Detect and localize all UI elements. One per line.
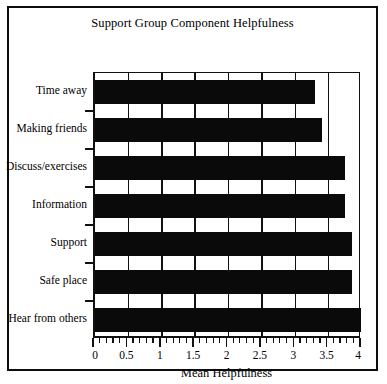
bars-layer <box>95 73 359 336</box>
x-axis-tick-major <box>259 338 261 347</box>
x-axis-tick-minor <box>146 338 147 343</box>
x-axis-tick-minor <box>266 338 267 343</box>
bar-row <box>95 156 359 180</box>
x-axis-tick-minor <box>233 338 234 343</box>
x-axis-tick-major <box>159 338 161 347</box>
y-axis-label-information: Information <box>32 199 87 211</box>
bar-row <box>95 270 359 294</box>
plot-area <box>93 72 360 338</box>
x-axis-tick-major <box>192 338 194 347</box>
x-axis-tick-label: 0 <box>92 349 98 361</box>
x-axis-tick-minor <box>112 338 113 343</box>
x-axis-tick-minor <box>99 338 100 343</box>
bar-row <box>95 308 359 332</box>
y-axis-label-discuss-exercises: Discuss/exercises <box>6 161 87 173</box>
x-axis-tick-minor <box>119 338 120 343</box>
x-axis-tick-label: 0.5 <box>119 349 133 361</box>
x-axis-tick-minor <box>173 338 174 343</box>
bar-support[interactable] <box>95 232 352 256</box>
x-axis-tick-minor <box>246 338 247 343</box>
x-axis-tick-minor <box>273 338 274 343</box>
x-axis-tick-minor <box>313 338 314 343</box>
x-axis-tick-minor <box>353 338 354 343</box>
x-axis-tick-minor <box>219 338 220 343</box>
y-axis-label-making-friends: Making friends <box>16 123 87 135</box>
y-axis-label-safe-place: Safe place <box>39 275 87 287</box>
y-axis-tick <box>85 262 93 264</box>
x-axis-tick-label: 2 <box>224 349 230 361</box>
x-axis-tick-minor <box>139 338 140 343</box>
x-axis-tick-minor <box>186 338 187 343</box>
bar-row <box>95 194 359 218</box>
x-axis-tick-minor <box>306 338 307 343</box>
y-axis-label-time-away: Time away <box>36 85 87 97</box>
x-axis-tick-minor <box>319 338 320 343</box>
x-axis-tick-minor <box>253 338 254 343</box>
x-axis-tick-label: 1.5 <box>186 349 200 361</box>
y-axis-label-hear-from-others: Hear from others <box>8 313 87 325</box>
x-axis-tick-minor <box>279 338 280 343</box>
bar-row <box>95 232 359 256</box>
x-axis-tick-label: 2.5 <box>253 349 267 361</box>
x-axis-tick-minor <box>206 338 207 343</box>
bar-row <box>95 118 359 142</box>
x-axis-tick-minor <box>106 338 107 343</box>
y-axis-category-labels: Time awayMaking friendsDiscuss/exercises… <box>9 72 93 338</box>
bar-row <box>95 80 359 104</box>
x-axis: Mean Helpfulness 00.511.522.533.54 <box>93 338 360 384</box>
x-axis-tick-major <box>326 338 328 347</box>
x-axis-tick-minor <box>213 338 214 343</box>
bar-discuss-exercises[interactable] <box>95 156 345 180</box>
x-axis-tick-label: 1 <box>157 349 163 361</box>
bar-information[interactable] <box>95 194 345 218</box>
x-axis-tick-minor <box>346 338 347 343</box>
x-axis-tick-minor <box>286 338 287 343</box>
x-axis-title: Mean Helpfulness <box>93 366 360 381</box>
x-axis-tick-minor <box>239 338 240 343</box>
y-axis-label-support: Support <box>51 237 87 249</box>
bar-time-away[interactable] <box>95 80 315 104</box>
bar-hear-from-others[interactable] <box>95 308 361 332</box>
y-axis-tick <box>85 186 93 188</box>
bar-making-friends[interactable] <box>95 118 322 142</box>
y-axis-tick <box>85 300 93 302</box>
x-axis-tick-minor <box>339 338 340 343</box>
x-axis-tick-major <box>226 338 228 347</box>
x-axis-tick-minor <box>333 338 334 343</box>
x-axis-tick-major <box>359 338 361 347</box>
x-axis-tick-label: 3 <box>290 349 296 361</box>
y-axis-tick <box>85 224 93 226</box>
x-axis-tick-major <box>92 338 94 347</box>
x-axis-tick-label: 4 <box>355 349 361 361</box>
x-axis-tick-minor <box>299 338 300 343</box>
x-axis-tick-minor <box>132 338 133 343</box>
y-axis-tick <box>85 110 93 112</box>
x-axis-tick-minor <box>199 338 200 343</box>
y-axis-tick <box>85 148 93 150</box>
x-axis-tick-label: 3.5 <box>319 349 333 361</box>
x-axis-tick-minor <box>152 338 153 343</box>
bar-safe-place[interactable] <box>95 270 352 294</box>
figure-frame: Support Group Component Helpfulness Time… <box>7 6 378 371</box>
chart-title: Support Group Component Helpfulness <box>9 16 376 31</box>
x-axis-tick-minor <box>166 338 167 343</box>
x-axis-tick-major <box>293 338 295 347</box>
x-axis-tick-minor <box>179 338 180 343</box>
x-axis-tick-major <box>126 338 128 347</box>
